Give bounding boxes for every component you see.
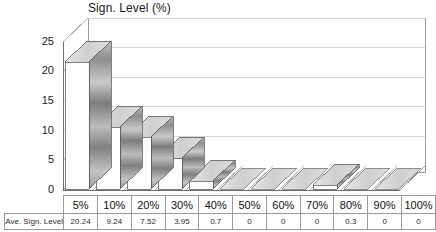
table-row-values: Ave. Sign. Level 20.24 9.24 7.52 3.95 0.… bbox=[5, 214, 436, 230]
y-tick-0: 0 bbox=[30, 183, 54, 195]
y-tick-5: 5 bbox=[30, 153, 54, 165]
bar-5 bbox=[65, 41, 111, 189]
table-header-cell: 60% bbox=[266, 196, 300, 214]
chart-screenshot: Sign. Level (%) bbox=[0, 0, 436, 232]
table-header-cell: 100% bbox=[402, 196, 436, 214]
table-row-categories: 5% 10% 20% 30% 40% 50% 60% 70% 80% 90% 1… bbox=[5, 196, 436, 214]
table-header-cell: 50% bbox=[233, 196, 267, 214]
table-row-label: Ave. Sign. Level bbox=[5, 214, 64, 230]
table-header-cell: 20% bbox=[131, 196, 165, 214]
y-tick-25: 25 bbox=[30, 35, 54, 47]
table-value-cell: 0.3 bbox=[334, 214, 368, 230]
table-corner-blank bbox=[5, 196, 64, 214]
table-value-cell: 0 bbox=[402, 214, 436, 230]
table-header-cell: 5% bbox=[64, 196, 98, 214]
table-header-cell: 40% bbox=[199, 196, 233, 214]
table-header-cell: 30% bbox=[165, 196, 199, 214]
table-header-cell: 10% bbox=[97, 196, 131, 214]
y-tick-15: 15 bbox=[30, 94, 54, 106]
table-value-cell: 0 bbox=[233, 214, 267, 230]
table-value-cell: 0 bbox=[300, 214, 334, 230]
table-value-cell: 0 bbox=[266, 214, 300, 230]
table-header-cell: 80% bbox=[334, 196, 368, 214]
table-value-cell: 3.95 bbox=[165, 214, 199, 230]
table-value-cell: 9.24 bbox=[97, 214, 131, 230]
table-value-cell: 20.24 bbox=[64, 214, 98, 230]
table-value-cell: 0 bbox=[368, 214, 402, 230]
chart-plot-area bbox=[0, 0, 436, 200]
data-table: 5% 10% 20% 30% 40% 50% 60% 70% 80% 90% 1… bbox=[4, 195, 436, 230]
table-header-cell: 70% bbox=[300, 196, 334, 214]
y-tick-20: 20 bbox=[30, 64, 54, 76]
table-value-cell: 7.52 bbox=[131, 214, 165, 230]
table-value-cell: 0.7 bbox=[199, 214, 233, 230]
table-header-cell: 90% bbox=[368, 196, 402, 214]
y-tick-10: 10 bbox=[30, 124, 54, 136]
